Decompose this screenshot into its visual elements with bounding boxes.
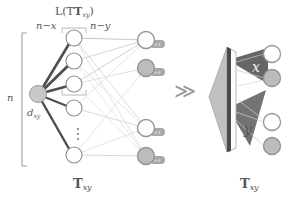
svg-text:n-1: n-1 (154, 42, 161, 47)
prism-edge (227, 47, 231, 152)
label-L-of-T: L(TTxy) (55, 6, 94, 17)
label-cone-x: x (252, 60, 260, 74)
edge-m3-r2 (74, 68, 146, 84)
node-prism-1[interactable] (264, 46, 281, 63)
node-hub[interactable] (30, 86, 47, 103)
node-prism-4[interactable] (264, 138, 281, 155)
right-panel-group (209, 46, 281, 155)
label-cone-y: y (244, 122, 252, 136)
svg-text:n-1: n-1 (154, 158, 161, 163)
node-middle-4[interactable] (66, 100, 82, 116)
caption-left: Txy (73, 177, 91, 190)
node-middle-3[interactable] (66, 76, 82, 92)
edge-prism-p2-alt (238, 80, 264, 86)
figure-panel: n-1 n-1 n-1 n-1 (0, 0, 289, 206)
node-middle-1[interactable] (66, 30, 82, 46)
caption-right: Txy (240, 177, 258, 190)
node-right-4[interactable] (138, 148, 155, 165)
label-n-minus-y: n−y (90, 21, 110, 31)
node-right-3[interactable] (138, 120, 155, 137)
node-prism-3[interactable] (264, 114, 281, 131)
much-greater-than-icon: ≫ (174, 81, 196, 102)
node-middle-5[interactable] (66, 147, 82, 163)
node-right-1[interactable] (138, 32, 155, 49)
badge-group: n-1 n-1 n-1 n-1 (150, 40, 165, 164)
light-edge-group (74, 38, 146, 156)
label-d-xy: dxy (27, 108, 40, 118)
edge-m1-r3 (74, 38, 146, 128)
bracket-n (22, 33, 27, 166)
vertical-ellipsis-icon (77, 125, 79, 143)
svg-text:n-1: n-1 (154, 130, 161, 135)
edge-m1-r4 (74, 38, 146, 156)
edge-m1-r1 (74, 38, 146, 40)
svg-text:n-1: n-1 (154, 70, 161, 75)
node-right-2[interactable] (138, 60, 155, 77)
edge-m5-r4 (74, 155, 146, 156)
node-prism-2[interactable] (264, 70, 281, 87)
node-middle-2[interactable] (66, 53, 82, 69)
node-group (30, 30, 155, 165)
label-n: n (7, 93, 13, 103)
edge-m3-r1 (74, 40, 146, 84)
label-n-minus-x: n−x (36, 21, 56, 31)
prism-side-face (209, 47, 227, 152)
